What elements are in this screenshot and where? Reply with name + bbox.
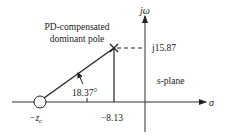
angle-arrow-icon [78, 73, 83, 84]
zero-label-subscript: c [39, 117, 43, 125]
open-circle-icon [34, 96, 46, 108]
zero-label: −zc [29, 113, 43, 125]
pole-label-line2: dominant pole [50, 34, 105, 44]
pole-label-line1: PD-compensated [45, 22, 110, 32]
real-value-label: −8.13 [101, 113, 123, 123]
imag-axis-label: jω [138, 5, 150, 16]
real-axis-label: σ [209, 97, 215, 108]
plane-label: s-plane [157, 76, 184, 86]
angle-label: 18.37° [72, 88, 97, 98]
zero-label-main: −z [29, 113, 39, 123]
imag-value-label: j15.87 [151, 43, 176, 53]
s-plane-diagram: PD-compensated dominant pole jω j15.87 s… [0, 0, 225, 135]
